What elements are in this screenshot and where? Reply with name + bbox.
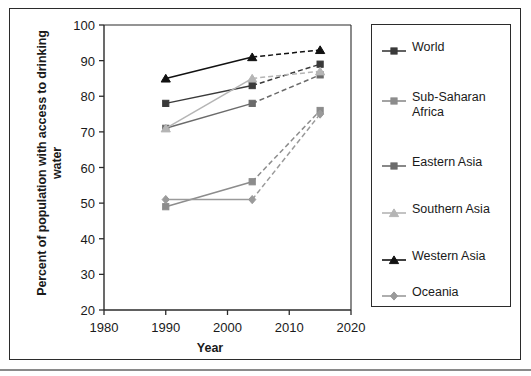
- figure: 203040506070809010019801990200020102020 …: [0, 0, 531, 376]
- x-tick-label: 2000: [213, 320, 242, 335]
- legend-label: Eastern Asia: [412, 155, 482, 170]
- legend-item-southern-asia[interactable]: Southern Asia: [381, 205, 490, 224]
- chart-series: [161, 46, 325, 82]
- legend-label: World: [412, 40, 444, 55]
- legend-item-western-asia[interactable]: Western Asia: [381, 252, 485, 271]
- legend-item-oceania[interactable]: Oceania: [381, 288, 459, 307]
- x-tick-label: 2010: [275, 320, 304, 335]
- legend-label: Oceania: [412, 285, 459, 300]
- y-tick-label: 60: [81, 161, 95, 176]
- y-tick-label: 50: [81, 196, 95, 211]
- y-tick-label: 40: [81, 232, 95, 247]
- legend-label: Western Asia: [412, 249, 485, 264]
- y-tick-label: 100: [73, 18, 95, 33]
- y-tick-label: 90: [81, 54, 95, 69]
- y-tick-label: 80: [81, 89, 95, 104]
- data-point-marker: [391, 163, 397, 169]
- y-tick-label: 30: [81, 267, 95, 282]
- data-point-marker: [391, 48, 397, 54]
- legend-item-eastern-asia[interactable]: Eastern Asia: [381, 158, 482, 177]
- x-tick-label: 1990: [151, 320, 180, 335]
- square-marker-icon: [381, 94, 407, 112]
- legend-label: Southern Asia: [412, 202, 490, 217]
- data-point-marker: [162, 195, 169, 203]
- page-bottom-rule: [0, 369, 531, 371]
- chart-series: [163, 72, 324, 132]
- data-point-marker: [249, 179, 255, 185]
- legend-item-world[interactable]: World: [381, 43, 444, 62]
- data-point-marker: [249, 100, 255, 106]
- legend-label: Sub-Saharan Africa: [412, 90, 486, 120]
- y-tick-label: 20: [81, 303, 95, 318]
- diamond-marker-icon: [381, 289, 407, 307]
- x-tick-label: 1980: [90, 320, 119, 335]
- x-tick-label: 2020: [337, 320, 366, 335]
- square-marker-icon: [381, 159, 407, 177]
- chart-legend: WorldSub-Saharan AfricaEastern AsiaSouth…: [371, 24, 511, 307]
- x-axis-title: Year: [60, 341, 360, 355]
- data-point-marker: [163, 204, 169, 210]
- y-tick-label: 70: [81, 125, 95, 140]
- square-marker-icon: [381, 44, 407, 62]
- data-point-marker: [391, 98, 397, 104]
- data-point-marker: [249, 82, 255, 88]
- y-axis-title: Percent of population with access to dri…: [35, 18, 65, 308]
- triangle-marker-icon: [381, 206, 407, 224]
- data-point-marker: [163, 100, 169, 106]
- triangle-marker-icon: [381, 253, 407, 271]
- chart-series: [162, 110, 324, 204]
- data-point-marker: [390, 292, 397, 300]
- legend-item-sub-saharan-africa[interactable]: Sub-Saharan Africa: [381, 93, 486, 120]
